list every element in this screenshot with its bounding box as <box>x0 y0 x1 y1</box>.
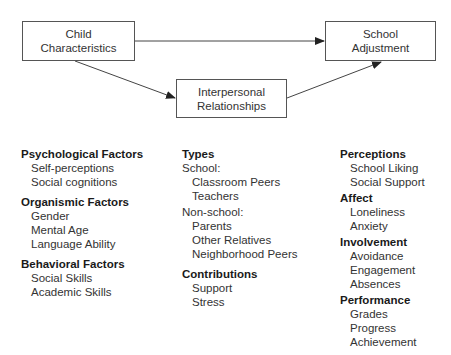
subgroup-label: School: <box>182 161 298 175</box>
list-item: Language Ability <box>21 237 143 251</box>
list-item: Social Support <box>340 175 425 189</box>
group-affect: Affect Loneliness Anxiety <box>340 191 425 233</box>
group-involvement: Involvement Avoidance Engagement Absence… <box>340 235 425 291</box>
list-item: Anxiety <box>340 219 425 233</box>
list-item: Gender <box>21 209 143 223</box>
group-organismic-factors: Organismic Factors Gender Mental Age Lan… <box>21 195 143 251</box>
list-item: Absences <box>340 277 425 291</box>
node-label: School <box>363 27 398 41</box>
list-item: Social Skills <box>21 271 143 285</box>
group-title: Organismic Factors <box>21 195 143 209</box>
group-psychological-factors: Psychological Factors Self-perceptions S… <box>21 147 143 189</box>
list-item: Stress <box>182 295 298 309</box>
diagram-canvas: Child Characteristics School Adjustment … <box>0 0 451 355</box>
group-title: Behavioral Factors <box>21 257 143 271</box>
node-label: Child <box>65 27 91 41</box>
group-performance: Performance Grades Progress Achievement <box>340 293 425 349</box>
group-behavioral-factors: Behavioral Factors Social Skills Academi… <box>21 257 143 299</box>
list-item: Neighborhood Peers <box>182 247 298 261</box>
group-title: Psychological Factors <box>21 147 143 161</box>
node-label: Characteristics <box>40 41 116 55</box>
node-school-adjustment: School Adjustment <box>325 21 436 61</box>
list-item: Progress <box>340 321 425 335</box>
group-title: Contributions <box>182 267 298 281</box>
node-label: Interpersonal <box>198 85 265 99</box>
list-item: Engagement <box>340 263 425 277</box>
list-item: Other Relatives <box>182 233 298 247</box>
group-title: Performance <box>340 293 425 307</box>
list-item: Social cognitions <box>21 175 143 189</box>
list-item: Classroom Peers <box>182 175 298 189</box>
group-perceptions: Perceptions School Liking Social Support <box>340 147 425 189</box>
node-interpersonal-relationships: Interpersonal Relationships <box>176 79 287 118</box>
group-title: Involvement <box>340 235 425 249</box>
group-contributions: Contributions Support Stress <box>182 267 298 309</box>
list-item: Avoidance <box>340 249 425 263</box>
node-child-characteristics: Child Characteristics <box>22 21 135 61</box>
list-item: Achievement <box>340 335 425 349</box>
arrow-child-to-interpersonal <box>75 61 175 98</box>
list-item: Parents <box>182 219 298 233</box>
list-item: Self-perceptions <box>21 161 143 175</box>
node-label: Adjustment <box>352 41 410 55</box>
list-item: Support <box>182 281 298 295</box>
node-label: Relationships <box>197 99 266 113</box>
group-title: Types <box>182 147 298 161</box>
list-item: Loneliness <box>340 205 425 219</box>
list-item: Grades <box>340 307 425 321</box>
school-adjustment-list: Perceptions School Liking Social Support… <box>340 147 425 351</box>
list-item: Mental Age <box>21 223 143 237</box>
list-item: Academic Skills <box>21 285 143 299</box>
group-title: Affect <box>340 191 425 205</box>
list-item: Teachers <box>182 189 298 203</box>
list-item: School Liking <box>340 161 425 175</box>
child-characteristics-list: Psychological Factors Self-perceptions S… <box>21 147 143 305</box>
interpersonal-relationships-list: Types School: Classroom Peers Teachers N… <box>182 147 298 315</box>
arrow-interpersonal-to-school <box>287 62 381 98</box>
subgroup-label: Non-school: <box>182 205 298 219</box>
group-types: Types School: Classroom Peers Teachers N… <box>182 147 298 261</box>
group-title: Perceptions <box>340 147 425 161</box>
